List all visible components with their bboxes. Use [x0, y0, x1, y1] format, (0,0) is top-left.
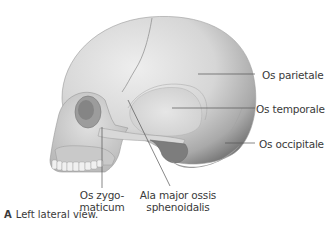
figure-caption: ALeft lateral view.	[4, 209, 98, 220]
label-ala-major-ossis-sphenoidalis: Ala major ossis sphenoidalis	[138, 189, 218, 213]
label-os-occipitale: Os occipitale	[259, 138, 324, 150]
label-os-parietale: Os parietale	[262, 69, 323, 81]
caption-letter: A	[4, 209, 12, 220]
mastoid-region-shape	[150, 140, 188, 163]
label-os-zygomaticum-line1: Os zygo-	[78, 189, 126, 201]
label-os-temporale: Os temporale	[256, 103, 325, 115]
label-ala-major-line2: sphenoidalis	[138, 201, 218, 213]
caption-text: Left lateral view.	[16, 209, 98, 220]
label-ala-major-line1: Ala major ossis	[138, 189, 218, 201]
